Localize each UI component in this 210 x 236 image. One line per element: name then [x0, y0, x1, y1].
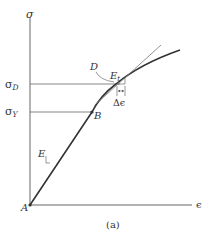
tangent-modulus-label: Et: [109, 70, 120, 83]
point-a-marker: [28, 203, 31, 206]
sigma-d-label: σD: [5, 78, 19, 92]
stress-strain-diagram: σ ϵ σD σY A B D Et Δϵ E (a): [0, 0, 210, 236]
delta-eps-arrowhead-left: [118, 90, 120, 92]
e-slope-triangle: [46, 156, 50, 163]
figure-caption: (a): [106, 219, 120, 230]
delta-eps-arrowhead-right: [122, 90, 124, 92]
sigma-axis-label: σ: [26, 8, 34, 21]
delta-epsilon-label: Δϵ: [113, 97, 125, 108]
tangent-line: [96, 45, 161, 104]
point-a-label: A: [20, 202, 28, 213]
elastic-modulus-label: E: [37, 148, 46, 159]
plastic-curve: [92, 50, 180, 112]
point-b-label: B: [93, 110, 101, 121]
epsilon-axis-label: ϵ: [196, 199, 202, 210]
point-d-label: D: [89, 61, 98, 72]
sigma-y-label: σY: [5, 105, 19, 119]
